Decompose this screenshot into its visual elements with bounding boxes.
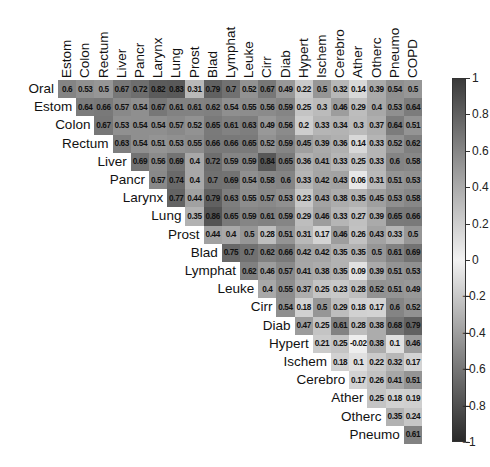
heatmap-cell: 0.56 <box>276 116 294 134</box>
heatmap-cell: 0.31 <box>295 226 313 244</box>
heatmap-cell: 0.4 <box>258 280 276 298</box>
heatmap-cell: 0.18 <box>295 298 313 316</box>
heatmap-cell: 0.59 <box>276 98 294 116</box>
heatmap-cell: 0.5 <box>313 80 331 98</box>
heatmap-cell: 0.51 <box>386 171 404 189</box>
heatmap-cell: 0.62 <box>204 98 222 116</box>
heatmap-cell: 0.7 <box>204 171 222 189</box>
heatmap-cell: 0.4 <box>367 98 385 116</box>
heatmap-cell: 0.54 <box>131 116 149 134</box>
heatmap-cell: 0.38 <box>367 335 385 353</box>
heatmap-cell: 0.6 <box>58 80 76 98</box>
heatmap-cell: 0.62 <box>240 262 258 280</box>
heatmap-cell: 0.26 <box>349 226 367 244</box>
heatmap-cell: 0.43 <box>331 171 349 189</box>
column-label: Diab <box>278 50 293 78</box>
heatmap-cell: 0.51 <box>149 135 167 153</box>
heatmap-cell: 0.52 <box>404 298 422 316</box>
colorbar-tick-label: −0.8 <box>462 399 486 413</box>
heatmap-cell: 0.25 <box>349 153 367 171</box>
heatmap-cell: 0.33 <box>313 116 331 134</box>
heatmap-cell: 0.18 <box>331 353 349 371</box>
column-label: Blad <box>205 51 220 78</box>
heatmap-cell: 0.29 <box>331 298 349 316</box>
heatmap-cell: 0.32 <box>331 80 349 98</box>
heatmap-cell: 0.56 <box>258 98 276 116</box>
column-label: Pancr <box>132 43 147 78</box>
heatmap-cell: 0.53 <box>276 189 294 207</box>
heatmap-cell: 0.22 <box>367 353 385 371</box>
heatmap-cell: 0.35 <box>349 244 367 262</box>
colorbar-tick-label: −0.4 <box>462 326 486 340</box>
column-label: Otherc <box>369 37 384 78</box>
row-label: Pancr <box>110 172 145 187</box>
heatmap-cell: 0.61 <box>331 317 349 335</box>
heatmap-cell: 0.44 <box>204 226 222 244</box>
heatmap-cell: 0.41 <box>295 262 313 280</box>
heatmap-cell: 0.53 <box>386 189 404 207</box>
heatmap-cell: 0.55 <box>185 135 203 153</box>
column-label: Leuke <box>241 41 256 78</box>
heatmap-cell: 0.53 <box>386 98 404 116</box>
colorbar-tick-label: −0.2 <box>462 289 486 303</box>
heatmap-cell: 0.3 <box>313 98 331 116</box>
heatmap-cell: 0.35 <box>331 262 349 280</box>
heatmap-cell: 0.4 <box>185 171 203 189</box>
heatmap-cell: 0.14 <box>349 80 367 98</box>
colorbar-tick-label: 0.8 <box>472 107 489 121</box>
heatmap-cell: 0.5 <box>404 226 422 244</box>
heatmap-cell: 0.53 <box>404 262 422 280</box>
heatmap-cell: 0.66 <box>204 135 222 153</box>
heatmap-cell: 0.33 <box>386 226 404 244</box>
row-label: Ather <box>331 390 363 405</box>
heatmap-cell: 0.52 <box>386 135 404 153</box>
heatmap-cell: 0.45 <box>295 135 313 153</box>
heatmap-cell: 0.28 <box>258 226 276 244</box>
heatmap-cell: 0.6 <box>386 153 404 171</box>
heatmap-cell: 0.65 <box>240 135 258 153</box>
row-label: Cirr <box>251 299 273 314</box>
heatmap-cell: 0.38 <box>313 262 331 280</box>
heatmap-cell: 0.28 <box>349 317 367 335</box>
heatmap-cell: 0.65 <box>386 207 404 225</box>
heatmap-cell: 0.18 <box>349 298 367 316</box>
heatmap-cell: 0.2 <box>295 116 313 134</box>
heatmap-cell: 0.67 <box>149 98 167 116</box>
heatmap-cell: 0.21 <box>313 335 331 353</box>
heatmap-cell: 0.26 <box>367 371 385 389</box>
heatmap-cell: 0.37 <box>295 280 313 298</box>
heatmap-cell: 0.66 <box>94 98 112 116</box>
heatmap-cell: 0.35 <box>185 207 203 225</box>
heatmap-cell: 0.09 <box>349 262 367 280</box>
heatmap-cell: 0.1 <box>386 335 404 353</box>
heatmap-cell: 0.57 <box>167 116 185 134</box>
row-label: Larynx <box>123 190 164 205</box>
heatmap-cell: 0.35 <box>331 244 349 262</box>
colorbar-tick-mark <box>466 114 470 115</box>
heatmap-cell: 0.51 <box>404 116 422 134</box>
heatmap-cell: 0.69 <box>167 153 185 171</box>
heatmap-cell: 0.67 <box>94 116 112 134</box>
heatmap-cell: 0.23 <box>331 280 349 298</box>
heatmap-cell: 0.63 <box>240 116 258 134</box>
column-label: Hypert <box>296 38 311 78</box>
heatmap-cell: 0.69 <box>222 171 240 189</box>
colorbar-tick-label: 0 <box>472 253 479 267</box>
heatmap-cell: 0.25 <box>313 280 331 298</box>
column-label: Estom <box>59 40 74 78</box>
heatmap-cell: 0.54 <box>386 80 404 98</box>
heatmap-cell: 0.62 <box>258 244 276 262</box>
colorbar-tick-mark <box>466 224 470 225</box>
heatmap-cell: 0.58 <box>258 171 276 189</box>
heatmap-cell: 0.46 <box>331 98 349 116</box>
heatmap-cell: 0.28 <box>349 280 367 298</box>
heatmap-cell: 0.51 <box>386 280 404 298</box>
heatmap-cell: 0.38 <box>367 317 385 335</box>
heatmap-cell: 0.82 <box>149 80 167 98</box>
heatmap-cell: 0.27 <box>349 207 367 225</box>
heatmap-cell: 0.17 <box>349 371 367 389</box>
colorbar-tick-mark <box>466 151 470 152</box>
heatmap-cell: 0.59 <box>222 153 240 171</box>
heatmap-cell: 0.54 <box>222 98 240 116</box>
heatmap-cell: 0.53 <box>167 135 185 153</box>
